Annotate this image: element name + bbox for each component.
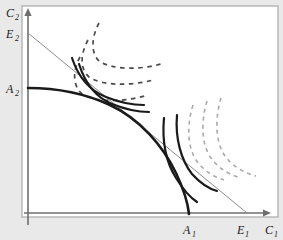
label-endowment-2: E [5,27,14,41]
x-axis-label-sub: 1 [274,230,278,239]
label-autarky-1-sub: 1 [192,230,196,239]
y-axis-label: C [6,6,15,20]
label-endowment-2-sub: 2 [15,34,19,43]
label-autarky-2-sub: 2 [15,89,19,98]
label-endowment-1-sub: 1 [245,230,249,239]
label-autarky-1: A [182,223,191,237]
economics-figure: C 2 C 1 E 2 A 2 A 1 E 1 [0,0,283,240]
label-autarky-2: A [5,82,14,96]
label-endowment-1: E [236,223,245,237]
diagram-canvas: C 2 C 1 E 2 A 2 A 1 E 1 [0,0,283,240]
plot-frame [22,6,278,217]
y-axis-label-sub: 2 [15,13,19,22]
x-axis-label: C [265,223,274,237]
